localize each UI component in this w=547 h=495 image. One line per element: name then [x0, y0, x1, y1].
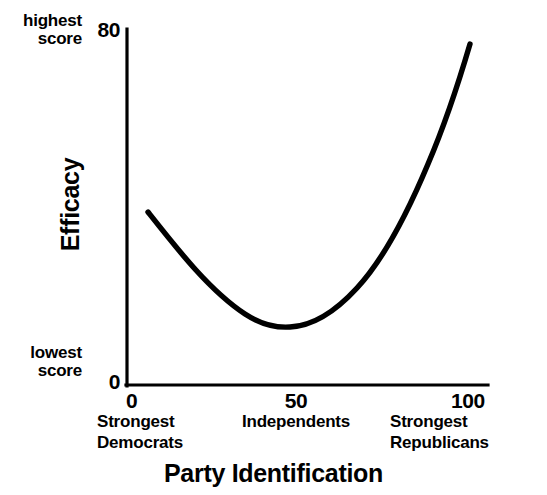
x-axis-tick-label-0: 0 — [97, 390, 227, 411]
x-axis-tick-group-50: 50 Independents — [231, 390, 361, 432]
efficacy-curve-line — [148, 44, 470, 327]
efficacy-party-identification-chart: highest score lowest score 80 0 Efficacy… — [0, 0, 547, 495]
x-axis-tick-label-50: 50 — [231, 390, 361, 411]
x-axis-tick-group-0: 0 Strongest Democrats — [93, 390, 227, 452]
x-axis-tick-caption-50-line1: Independents — [231, 413, 361, 432]
x-axis-tick-caption-100-line1: Strongest — [390, 413, 540, 432]
x-axis-tick-group-100: 100 Strongest Republicans — [390, 390, 540, 452]
x-axis-tick-caption-0-line2: Democrats — [97, 434, 227, 453]
x-axis-tick-caption-100-line2: Republicans — [390, 434, 540, 453]
x-axis-tick-label-100: 100 — [390, 390, 540, 411]
x-axis-title: Party Identification — [0, 459, 547, 488]
x-axis-tick-caption-0-line1: Strongest — [97, 413, 227, 432]
